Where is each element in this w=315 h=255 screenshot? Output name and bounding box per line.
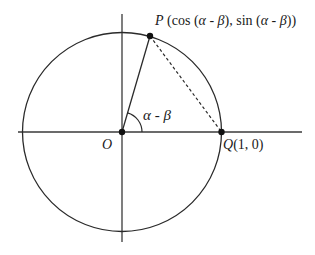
label-Q-coords: (1, 0)	[233, 137, 264, 153]
point-P	[147, 33, 153, 39]
label-O: O	[102, 137, 112, 152]
beta-symbol: β	[217, 13, 225, 28]
point-Q	[218, 129, 224, 135]
minus-sign: -	[206, 13, 218, 28]
label-Q-name: Q	[223, 137, 233, 152]
label-P-text: (cos (	[164, 13, 199, 29]
minus-sign: -	[268, 13, 280, 28]
label-P-name: P	[154, 13, 164, 28]
beta-symbol: β	[162, 107, 171, 123]
unit-circle-diagram: O P (cos (α - β), sin (α - β)) Q(1, 0) α…	[0, 0, 315, 255]
minus-sign: -	[151, 107, 164, 123]
label-P-text: ))	[287, 13, 297, 29]
beta-symbol: β	[279, 13, 287, 28]
label-P: P (cos (α - β), sin (α - β))	[154, 13, 296, 29]
angle-label: α - β	[143, 107, 171, 123]
angle-arc	[128, 113, 142, 132]
point-O	[119, 129, 125, 135]
label-Q: Q(1, 0)	[223, 137, 264, 153]
label-P-text: ), sin (	[225, 13, 262, 29]
